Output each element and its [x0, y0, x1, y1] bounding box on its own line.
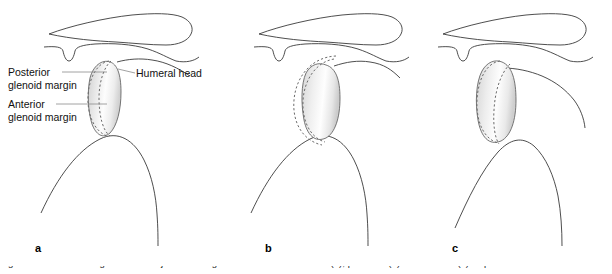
acromion-lower-edge-b: [386, 57, 409, 62]
clavicle-outline-a: [49, 14, 192, 45]
label-posterior-line2: glenoid margin: [8, 79, 77, 92]
acromion-lower-edge-a: [176, 57, 199, 62]
panel-b-drawing: [251, 14, 409, 246]
leader-line-humeral-head-a: [118, 69, 135, 73]
scapula-body-c2: [534, 146, 562, 246]
scapula-body-c: [455, 140, 534, 228]
panel-letter-a: a: [35, 242, 41, 254]
illustration-svg: [0, 0, 612, 274]
humerus-neck-outline-b: [334, 61, 400, 78]
acromion-outline-a: [44, 44, 176, 61]
figure-container: Posterior glenoid margin Anterior glenoi…: [0, 0, 612, 274]
label-anterior-line2: glenoid margin: [8, 111, 77, 124]
panel-a-drawing: [41, 14, 199, 246]
label-posterior-line1: Posterior: [8, 66, 77, 79]
scapula-body-b: [251, 136, 368, 246]
acromion-outline-c: [438, 44, 570, 61]
clavicle-outline-b: [259, 14, 402, 45]
panel-c-drawing: [438, 14, 593, 246]
humeral-head-shape-b: [302, 64, 340, 140]
panel-letter-c: c: [452, 242, 458, 254]
panel-letter-b: b: [265, 242, 272, 254]
scapula-body-a: [41, 136, 158, 246]
label-humeral-head: Humeral head: [136, 67, 202, 80]
label-posterior-glenoid-margin: Posterior glenoid margin: [8, 66, 77, 91]
figure-caption-clipped: Fig. 1 Axial view of the glenohumeral jo…: [0, 266, 612, 274]
humeral-head-shape-a: [88, 61, 121, 135]
label-anterior-glenoid-margin: Anterior glenoid margin: [8, 98, 77, 123]
label-anterior-line1: Anterior: [8, 98, 77, 111]
figure-caption-text: Fig. 1 Axial view of the glenohumeral jo…: [0, 266, 612, 268]
acromion-lower-edge-c: [570, 57, 593, 62]
clavicle-outline-c: [443, 14, 586, 45]
acromion-outline-b: [254, 44, 386, 61]
